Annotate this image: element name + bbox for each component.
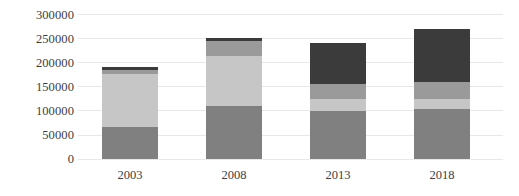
- bar-segment-segment-1-2013[interactable]: [310, 111, 366, 159]
- x-tick-label-2003: 2003: [102, 169, 158, 182]
- bar-segment-segment-4-2013[interactable]: [310, 43, 366, 84]
- bar-stack[interactable]: [206, 38, 262, 159]
- bar-stack[interactable]: [102, 67, 158, 159]
- bar-segment-segment-2-2008[interactable]: [206, 56, 262, 106]
- y-tick-label: 100000: [2, 105, 74, 118]
- x-tick-label-2008: 2008: [206, 169, 262, 182]
- bar-segment-segment-1-2008[interactable]: [206, 106, 262, 160]
- x-tick-label-2018: 2018: [414, 169, 470, 182]
- stacked-bar-chart: 300000 250000 200000 150000 100000 50000…: [0, 0, 519, 196]
- bar-segment-segment-2-2003[interactable]: [102, 74, 158, 127]
- bar-stack[interactable]: [310, 43, 366, 159]
- gridline-300000: [78, 14, 503, 15]
- y-tick-label: 0: [2, 153, 74, 166]
- bar-stack[interactable]: [414, 29, 470, 159]
- y-tick-label: 50000: [2, 129, 74, 142]
- y-axis: 300000 250000 200000 150000 100000 50000…: [0, 0, 74, 196]
- bar-segment-segment-3-2018[interactable]: [414, 82, 470, 99]
- y-tick-label: 250000: [2, 33, 74, 46]
- bar-segment-segment-3-2013[interactable]: [310, 84, 366, 99]
- x-axis: 2003 2008 2013 2018: [78, 163, 503, 191]
- bar-segment-segment-3-2008[interactable]: [206, 41, 262, 56]
- y-tick-label: 150000: [2, 81, 74, 94]
- bar-segment-segment-2-2013[interactable]: [310, 99, 366, 111]
- bar-segment-segment-4-2018[interactable]: [414, 29, 470, 83]
- bar-segment-segment-1-2018[interactable]: [414, 109, 470, 159]
- x-tick-label-2013: 2013: [310, 169, 366, 182]
- bar-segment-segment-1-2003[interactable]: [102, 127, 158, 159]
- bar-segment-segment-2-2018[interactable]: [414, 99, 470, 109]
- y-tick-label: 300000: [2, 9, 74, 22]
- y-tick-label: 200000: [2, 57, 74, 70]
- plot-area: [78, 14, 503, 159]
